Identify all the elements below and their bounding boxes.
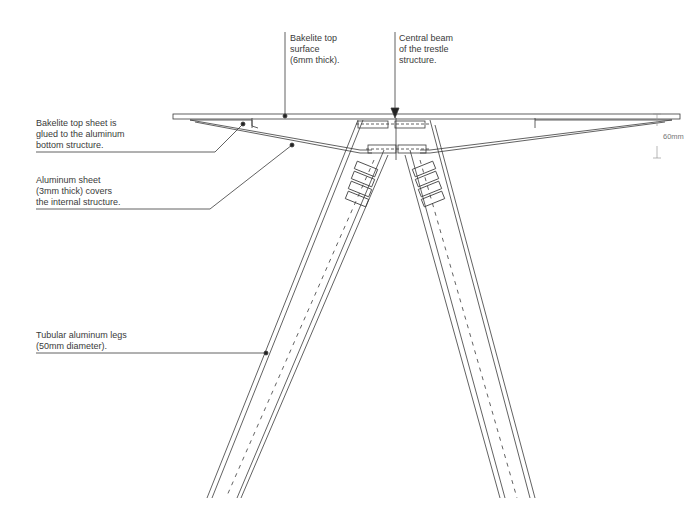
label-bakelite-glued: Bakelite top sheet is glued to the alumi…	[36, 118, 125, 151]
label-central-beam: Central beam of the trestle structure.	[399, 33, 453, 66]
label-tubular-legs: Tubular aluminum legs (50mm diameter).	[36, 330, 127, 352]
label-aluminum-sheet: Aluminum sheet (3mm thick) covers the in…	[36, 175, 121, 208]
label-bakelite-top-surface: Bakelite top surface (6mm thick).	[290, 33, 340, 66]
dimension-marker	[653, 114, 661, 158]
left-leg	[207, 120, 388, 498]
trestle-diagram	[0, 0, 699, 530]
bakelite-top-surface-shape	[173, 114, 680, 119]
label-dimension: 60mm	[663, 131, 684, 142]
right-leg	[405, 120, 535, 498]
